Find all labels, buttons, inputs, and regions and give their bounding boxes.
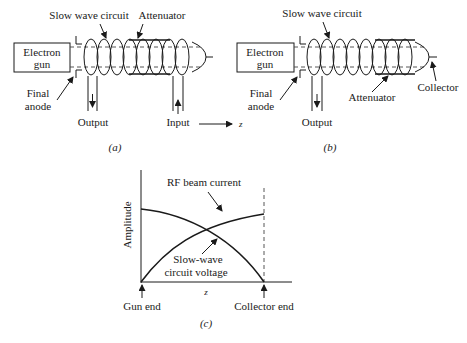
y-axis-label: Amplitude [121,201,133,248]
final-anode-b [300,36,306,78]
slow-wave-circuit-label-a: Slow wave circuit [49,9,128,21]
electron-gun-label-a: Electron [23,46,61,58]
collector-b [415,42,429,72]
final-anode-a [76,36,82,78]
final-anode-label-b-2: anode [248,100,274,112]
output-label-b: Output [302,116,333,128]
z-label-a: z [238,119,243,129]
attenuator-label-b: Attenuator [348,91,395,103]
electron-gun-label-b: Electron [246,46,284,58]
input-label-a: Input [166,116,189,128]
slow-wave-circuit-label-b: Slow wave circuit [282,7,361,19]
figure-b: Electron gun Slow wave circuit Final ano… [237,7,459,154]
twt-figure: Electron gun Slow wave circuit Attenuato… [0,0,467,343]
collector-label-b: Collector [418,81,459,93]
final-anode-label-a-2: anode [25,100,51,112]
electron-gun-label-a-2: gun [34,58,51,70]
caption-c: (c) [200,317,213,330]
helix-a [84,39,189,75]
voltage-label: Slow-wave [173,253,223,265]
rf-beam-current-label: RF beam current [167,176,241,188]
figure-c: Amplitude RF beam current Slow-wave circ… [121,170,294,330]
gun-end-label: Gun end [123,300,161,312]
attenuator-label-a: Attenuator [138,9,185,21]
caption-b: (b) [324,141,337,154]
helix-b [307,39,412,75]
x-axis-label: z [203,287,208,297]
caption-a: (a) [109,141,122,154]
collector-a [192,42,206,72]
collector-end-label: Collector end [234,300,294,312]
final-anode-label-b: Final [250,87,273,99]
output-label-a: Output [78,116,109,128]
final-anode-label-a: Final [27,87,50,99]
figure-a: Electron gun Slow wave circuit Attenuato… [14,9,243,154]
electron-gun-label-b-2: gun [257,58,274,70]
voltage-label-2: circuit voltage [164,266,227,278]
